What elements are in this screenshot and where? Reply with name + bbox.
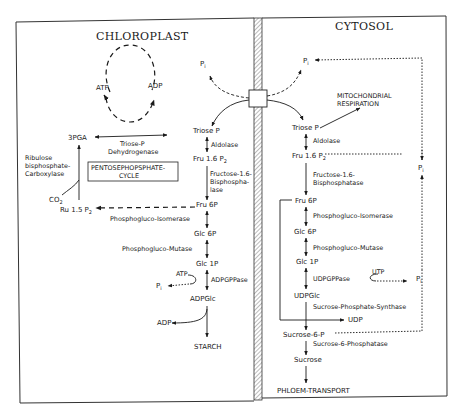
triose-p-dh-label-1: Triose-P <box>119 140 145 148</box>
cytosol-fbpase-1: Fructose-1.6- <box>313 171 355 179</box>
cytosol-pgi-label: Phosphogluco-Isomerase <box>313 212 393 220</box>
pi-import-arrow <box>210 76 249 98</box>
adpglc-label: ADPGlc <box>190 295 216 303</box>
atp-adpgppase-label: ATP <box>176 270 188 278</box>
cytosol-aldolase-label: Aldolase <box>313 137 340 145</box>
chloroplast-fbpase-3: lase <box>210 186 223 194</box>
s6pase-label: Sucrose-6-Phosphatase <box>313 340 388 348</box>
cytosol-fbpase-2: Bisphosphatase <box>313 179 364 187</box>
phosphate-translocator <box>249 90 267 107</box>
cytosol-title: CYTOSOL <box>335 20 393 33</box>
photosynthate-partitioning-diagram: CHLOROPLAST CYTOSOL ATP ADP Pi 3PGA Trio… <box>0 0 462 420</box>
utp-label: UTP <box>372 268 385 276</box>
mitochondrial-respiration-arrow <box>320 108 360 128</box>
triose-p-export-to-chloroplast-arrow <box>212 100 249 126</box>
chloroplast-g1p: Glc 1P <box>196 260 218 268</box>
rubisco-label-3: Carboxylase <box>25 170 64 178</box>
fru6p-to-rubp-dashed-arrow <box>96 207 195 208</box>
adp-starch-label: ADP <box>157 319 171 327</box>
cytosol-g6p: Glc 6P <box>294 228 316 236</box>
adp-label: ADP <box>148 82 162 90</box>
co2-fixation-curve <box>62 180 79 195</box>
mito-label-1: MITOCHONDRIAL <box>337 92 392 100</box>
pi-top-cytosol: Pi <box>303 57 309 66</box>
pi-release-arrow <box>168 284 189 286</box>
rubisco-label-1: Ribulose <box>25 154 52 162</box>
adp-release-arrow <box>172 309 207 323</box>
chloroplast-envelope-membrane <box>254 18 262 400</box>
pi-adpgppase: Pi <box>156 282 162 291</box>
atp-consumption-curve <box>188 275 196 284</box>
chloroplast-pgi-label: Phosphogluco-Isomerase <box>110 215 190 223</box>
phloem-transport-label: PHLOEM-TRANSPORT <box>277 387 350 395</box>
triose-p-dehydrogenase-arrow <box>95 135 167 137</box>
chloroplast-pgm-label: Phosphogluco-Mutase <box>122 245 192 253</box>
cytosol-g1p: Glc 1P <box>296 258 318 266</box>
udpglc-label: UDPGlc <box>294 292 320 300</box>
pi-top-chloroplast: Pi <box>200 60 206 69</box>
adpgppase-label: ADPGPPase <box>211 276 248 284</box>
chloroplast-fbp: Fru 1.6 P2 <box>193 155 227 164</box>
chloroplast-triose-p: Triose P <box>192 127 220 135</box>
3pga-label: 3PGA <box>68 134 87 142</box>
udp-label: UDP <box>348 316 363 324</box>
sps-label: Sucrose-Phosphate-Synthase <box>313 303 406 311</box>
ppp-label-2: CYCLE <box>119 172 139 180</box>
cytosol-pgm-label: Phosphogluco-Mutase <box>313 244 383 252</box>
pi-to-translocator-arrow <box>267 70 301 96</box>
chloroplast-title: CHLOROPLAST <box>96 30 189 43</box>
chloroplast-g6p: Glc 6P <box>194 230 216 238</box>
cytosol-fbp: Fru 1.6 P2 <box>292 152 326 161</box>
chloroplast-fbpase-1: Fructose-1.6- <box>210 170 252 178</box>
co2-label: CO2 <box>49 196 63 205</box>
atp-label: ATP <box>96 84 109 92</box>
pi-right-cytosol: Pi <box>418 164 424 173</box>
starch-label: STARCH <box>194 343 222 351</box>
mito-label-2: RESPIRATION <box>337 100 379 108</box>
sucrose-label: Sucrose <box>294 356 322 364</box>
ppp-label-1: PENTOSEPHOPSPHATE- <box>91 164 165 172</box>
s6p-label: Sucrose-6-P <box>283 331 324 339</box>
rubisco-label-2: bisphosphate- <box>25 162 70 170</box>
udpgppase-label: UDPGPPase <box>313 275 350 283</box>
cytosol-triose-p: Triose P <box>291 124 319 132</box>
chloroplast-fbpase-2: Bisphospha- <box>210 178 249 186</box>
pi-mid-cytosol: Pi <box>416 275 422 284</box>
rubp-label: Ru 1.5 P2 <box>60 206 92 215</box>
triose-p-dh-label-2: Dehydrogenase <box>108 148 158 156</box>
chloroplast-f6p: Fru 6P <box>196 201 218 209</box>
chloroplast-aldolase-label: Aldolase <box>211 141 238 149</box>
triose-p-export-arrow <box>267 100 303 120</box>
cytosol-f6p: Fru 6P <box>295 197 317 205</box>
